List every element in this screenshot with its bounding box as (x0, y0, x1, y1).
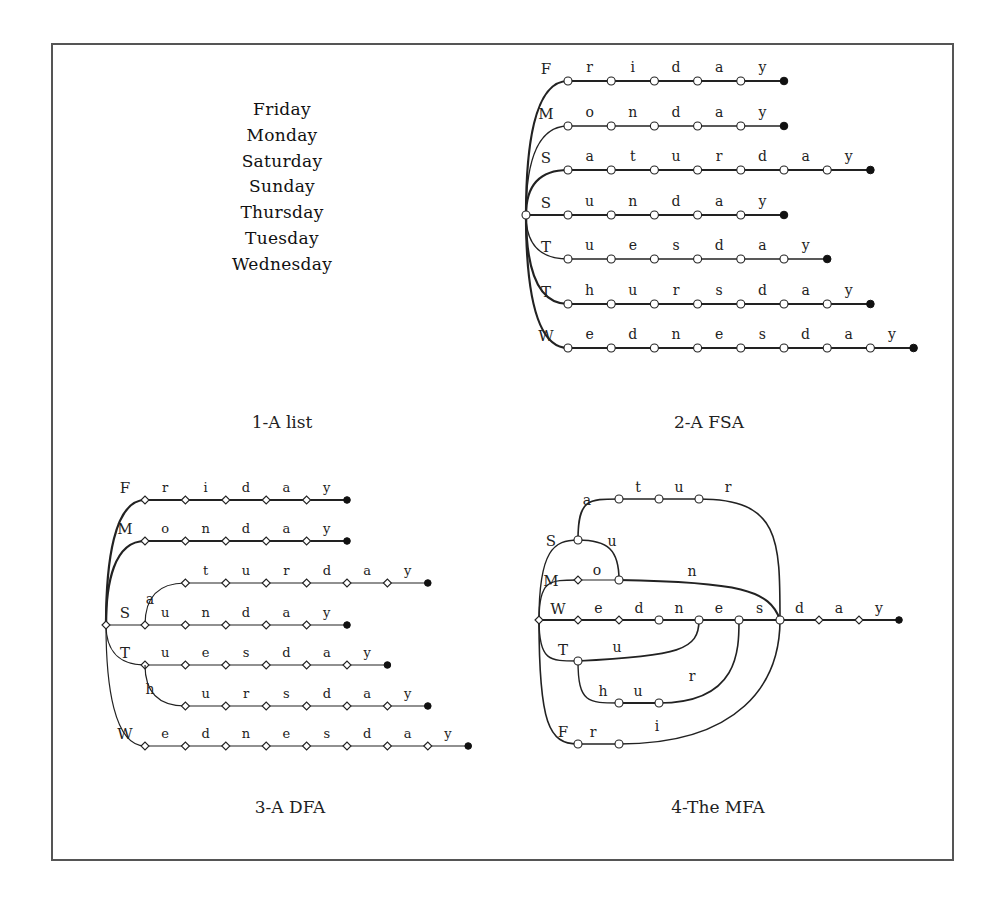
transition-label: n (687, 563, 696, 579)
state-node (222, 742, 230, 750)
transition-label: r (689, 668, 696, 684)
final-state-node (780, 211, 788, 219)
transition-label: u (585, 193, 594, 209)
transition-label: a (323, 645, 331, 660)
state-node (737, 255, 745, 263)
transition-label: u (671, 148, 680, 164)
transition-label: o (593, 562, 601, 578)
state-node (303, 661, 311, 669)
transition-label: a (283, 521, 291, 536)
state-node (141, 742, 149, 750)
transition-label: y (322, 480, 331, 495)
state-node (564, 211, 572, 219)
state-node (650, 255, 658, 263)
transition-edge (619, 620, 780, 744)
state-node (607, 77, 615, 85)
state-node (303, 702, 311, 710)
state-node (383, 742, 391, 750)
state-node (181, 661, 189, 669)
state-node (141, 621, 149, 629)
transition-label: y (363, 645, 372, 660)
transition-label: s (323, 726, 330, 741)
final-state-node (344, 538, 351, 545)
state-node (694, 344, 702, 352)
state-node (780, 344, 788, 352)
state-node (780, 300, 788, 308)
state-node (564, 300, 572, 308)
transition-label: t (635, 479, 641, 495)
transition-label: a (585, 148, 593, 164)
state-node (303, 496, 311, 504)
state-node (737, 166, 745, 174)
state-node (694, 211, 702, 219)
state-node (222, 702, 230, 710)
state-node (823, 344, 831, 352)
final-state-node (910, 344, 918, 352)
state-node (535, 616, 543, 624)
transition-label: F (541, 60, 551, 78)
state-node (737, 344, 745, 352)
transition-label: s (756, 600, 763, 616)
state-node (343, 702, 351, 710)
transition-label: d (242, 521, 250, 536)
transition-label: s (716, 282, 723, 298)
transition-label: T (541, 238, 551, 256)
transition-label: y (844, 148, 853, 164)
state-node (343, 661, 351, 669)
state-node (780, 166, 788, 174)
transition-label: d (635, 600, 644, 616)
transition-label: n (628, 104, 637, 120)
transition-label: i (631, 59, 636, 75)
transition-label: a (801, 282, 809, 298)
transition-label: e (594, 600, 602, 616)
transition-label: T (541, 283, 551, 301)
state-node (650, 211, 658, 219)
state-node (222, 661, 230, 669)
transition-label: u (585, 237, 594, 253)
final-state-node (867, 166, 875, 174)
state-node (181, 537, 189, 545)
state-node (866, 344, 874, 352)
state-node (735, 616, 743, 624)
transition-label: M (117, 520, 132, 538)
state-node (607, 166, 615, 174)
state-node (650, 344, 658, 352)
transition-label: M (543, 572, 558, 590)
transition-edge (578, 620, 699, 661)
transition-label: r (162, 480, 169, 495)
state-node (262, 621, 270, 629)
state-node (564, 166, 572, 174)
final-state-node (780, 122, 788, 130)
state-node (650, 122, 658, 130)
state-node (650, 300, 658, 308)
state-node (383, 702, 391, 710)
final-state-node (896, 617, 903, 624)
state-node (564, 344, 572, 352)
state-node (262, 661, 270, 669)
state-node (102, 621, 110, 629)
transition-label: u (612, 639, 621, 655)
state-node (694, 166, 702, 174)
state-node (574, 536, 582, 544)
final-state-node (344, 622, 351, 629)
transition-label: s (759, 326, 766, 342)
transition-label: a (801, 148, 809, 164)
state-node (564, 122, 572, 130)
transition-label: d (801, 326, 810, 342)
transition-label: d (242, 605, 250, 620)
transition-label: y (322, 521, 331, 536)
fsa-diagram: FridayMondaySaturdaySundayTuesdayThursda… (522, 59, 917, 352)
transition-label: i (655, 718, 660, 734)
state-node (650, 77, 658, 85)
transition-label: o (161, 521, 169, 536)
transition-label: d (201, 726, 209, 741)
transition-label: t (203, 563, 209, 578)
state-node (695, 616, 703, 624)
transition-label: u (242, 563, 250, 578)
state-node (574, 740, 582, 748)
transition-label: a (835, 600, 843, 616)
transition-label: y (757, 193, 766, 209)
state-node (574, 657, 582, 665)
transition-label: o (585, 104, 593, 120)
state-node (694, 122, 702, 130)
